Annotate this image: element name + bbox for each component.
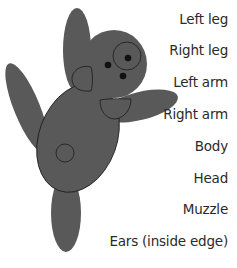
label-muzzle: Muzzle — [183, 201, 228, 217]
eye-right-dot — [120, 73, 127, 80]
teddy-bear-diagram — [0, 0, 237, 268]
label-right-arm: Right arm — [163, 106, 228, 122]
label-body: Body — [195, 138, 228, 154]
body-patch-shape — [56, 144, 74, 162]
label-head: Head — [194, 170, 229, 186]
nose-dot — [125, 55, 132, 62]
label-left-leg: Left leg — [179, 11, 228, 27]
label-left-arm: Left arm — [173, 74, 228, 90]
label-right-leg: Right leg — [169, 42, 228, 58]
eye-left-dot — [105, 62, 112, 69]
label-ears: Ears (inside edge) — [109, 233, 228, 249]
